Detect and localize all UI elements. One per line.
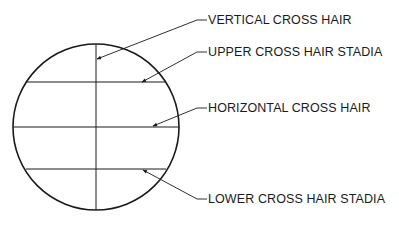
- leader-lower: [143, 170, 207, 199]
- label-vertical-cross-hair: VERTICAL CROSS HAIR: [208, 13, 352, 27]
- label-upper-cross-hair-stadia: UPPER CROSS HAIR STADIA: [208, 45, 382, 59]
- leader-upper: [142, 52, 207, 82]
- leader-vertical: [97, 20, 207, 59]
- label-horizontal-cross-hair: HORIZONTAL CROSS HAIR: [208, 101, 371, 115]
- leader-horizontal: [153, 108, 207, 126]
- label-lower-cross-hair-stadia: LOWER CROSS HAIR STADIA: [208, 192, 385, 206]
